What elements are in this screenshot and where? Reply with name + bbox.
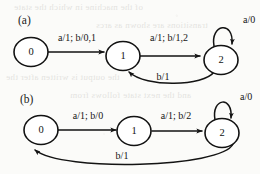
transition-b-1-to-2-label: a/1; b/2 [161,110,191,121]
figure-canvas: (a) a/1; b/0,1 a/1; b/1,2 a/0 b/1 [0,0,260,174]
transition-a-2-self-loop: a/0 [214,14,256,46]
transition-b-2-to-0: b/1 [35,144,233,164]
transition-b-2-self-loop-label: a/0 [240,91,252,102]
state-a-2-label: 2 [218,54,223,65]
transition-a-2-self-loop-arrow [214,28,233,46]
transition-a-1-to-2: a/1; b/1,2 [140,32,200,56]
state-b-0: 0 [24,116,58,145]
state-b-0-label: 0 [38,124,43,135]
state-b-1: 1 [117,117,151,146]
transition-b-2-self-loop-arrow [215,102,232,120]
transition-a-2-to-1-label: b/1 [157,71,170,82]
state-a-2: 2 [204,46,238,75]
panel-b: (b) a/1; b/0 a/1; b/2 a/0 b/1 [20,91,252,164]
transition-b-2-to-0-label: b/1 [116,150,129,161]
transition-b-2-to-0-arrow [35,144,233,164]
state-a-0: 0 [14,38,48,67]
state-a-0-label: 0 [28,46,33,57]
transition-b-2-self-loop: a/0 [215,91,253,120]
transition-a-1-to-2-label: a/1; b/1,2 [150,32,188,43]
state-machine-figure: of the machine in which the state transi… [0,0,260,174]
transition-a-2-self-loop-label: a/0 [243,14,255,25]
state-b-1-label: 1 [131,125,136,136]
transition-a-0-to-1: a/1; b/0,1 [48,32,104,52]
transition-b-0-to-1: a/1; b/0 [58,110,116,130]
state-b-2: 2 [205,119,239,148]
state-a-1: 1 [106,42,140,71]
state-a-1-label: 1 [120,50,125,61]
transition-a-2-to-1: b/1 [129,71,214,83]
transition-a-2-to-1-arrow [129,72,214,83]
panel-b-tag: (b) [20,93,34,106]
state-b-2-label: 2 [219,127,224,138]
transition-b-0-to-1-label: a/1; b/0 [73,110,103,121]
panel-a: (a) a/1; b/0,1 a/1; b/1,2 a/0 b/1 [14,14,255,83]
panel-a-tag: (a) [18,14,31,27]
transition-b-1-to-2: a/1; b/2 [152,110,202,131]
transition-a-0-to-1-label: a/1; b/0,1 [58,32,96,43]
